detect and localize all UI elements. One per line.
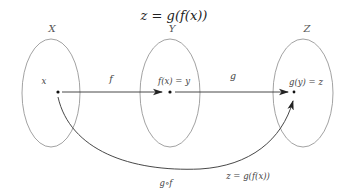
map-f-label: f <box>108 73 114 84</box>
composition-diagram: z = g(f(x)) X x Y f(x) = y Z g(y) = z f … <box>0 0 348 196</box>
set-z-ellipse <box>273 39 333 147</box>
set-x: X x <box>22 23 80 147</box>
map-g-label: g <box>230 70 236 81</box>
composition-arrow <box>58 97 293 169</box>
element-z-dot <box>293 91 296 94</box>
element-y-label: f(x) = y <box>157 76 190 86</box>
element-x-dot <box>56 90 59 93</box>
set-z-label: Z <box>303 23 312 34</box>
element-z-label: g(y) = z <box>289 77 323 87</box>
set-x-ellipse <box>22 39 80 147</box>
set-x-label: X <box>47 23 56 34</box>
set-y-label: Y <box>169 23 177 34</box>
set-y: Y f(x) = y <box>140 23 200 147</box>
diagram-title: z = g(f(x)) <box>140 8 208 23</box>
composition-label: g∘f <box>160 178 175 188</box>
element-x-label: x <box>42 76 47 86</box>
set-z: Z g(y) = z <box>273 23 333 147</box>
element-y-dot <box>168 90 171 93</box>
composition-result-label: z = g(f(x)) <box>225 171 270 181</box>
